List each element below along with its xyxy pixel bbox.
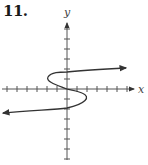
y-axis-label: y [63,6,71,19]
graph: x y [0,0,148,165]
y-axis [64,23,70,160]
s-curve [3,68,126,113]
x-axis-label: x [138,83,145,96]
